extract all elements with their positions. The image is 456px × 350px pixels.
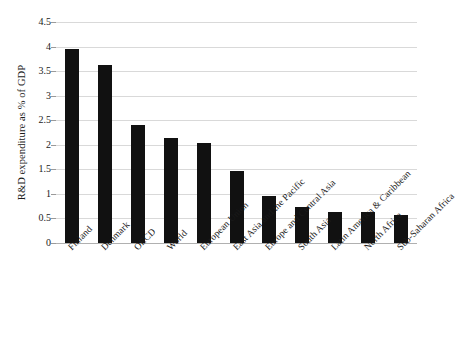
y-tick-label: 4.5: [7, 17, 51, 27]
bar: [164, 138, 178, 243]
y-tick-label: 1.5: [7, 164, 51, 174]
y-tick-label: 0.5: [7, 213, 51, 223]
y-tick-mark: [51, 243, 56, 244]
y-tick-label: 2.5: [7, 115, 51, 125]
y-tick-label: 4: [7, 42, 51, 52]
y-tick-label: 3.5: [7, 66, 51, 76]
bar: [197, 143, 211, 243]
x-axis-labels: FinlandDenmarkOECDWorldEuropean UnionEas…: [56, 245, 417, 350]
y-axis-title: R&D expenditure as % of GDP: [14, 22, 30, 243]
bar: [98, 65, 112, 243]
y-tick-label: 3: [7, 91, 51, 101]
y-tick-label: 1: [7, 189, 51, 199]
bar: [131, 125, 145, 243]
bar: [65, 49, 79, 243]
y-tick-label: 2: [7, 140, 51, 150]
y-tick-label: 0: [7, 238, 51, 248]
